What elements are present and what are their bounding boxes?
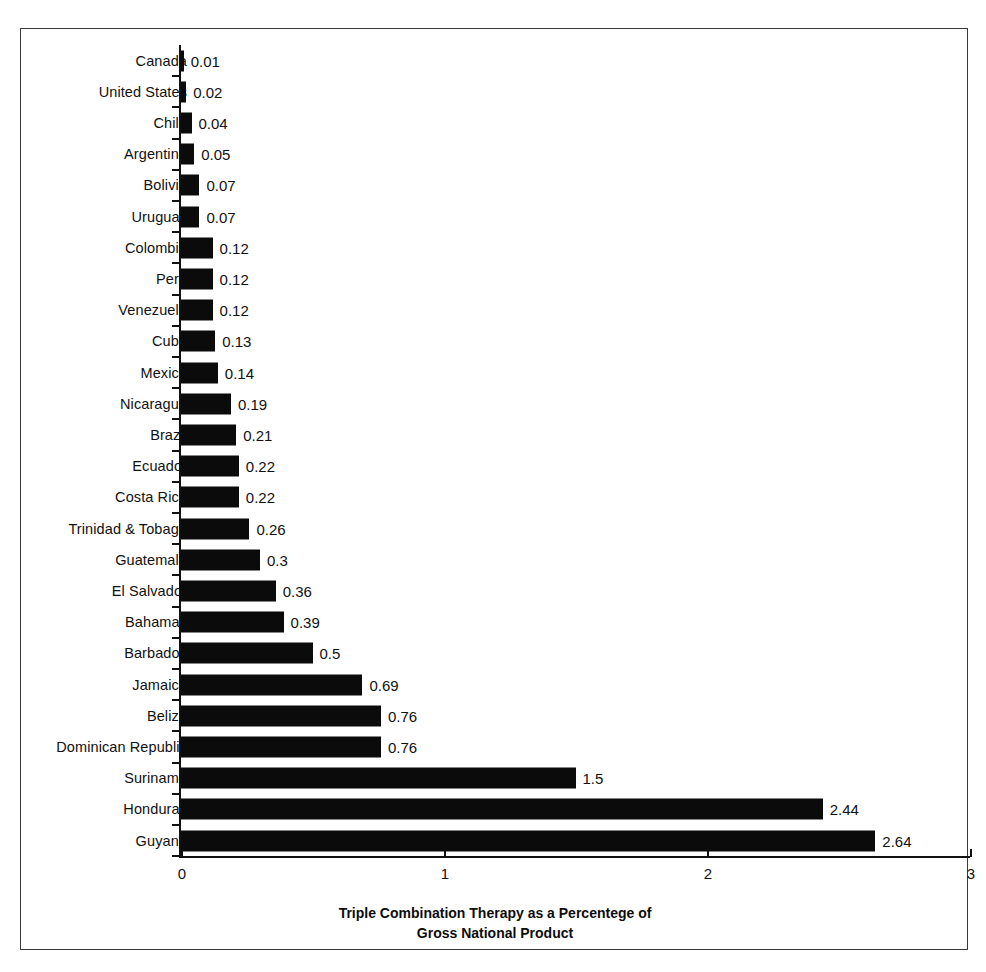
x-axis-tick-label: 3: [967, 865, 975, 882]
y-axis-tick: [172, 543, 179, 545]
bar-category-label: Barbados: [124, 645, 187, 661]
bar: [181, 81, 186, 102]
bar-category-label: Dominican Republic: [56, 739, 187, 755]
x-axis-tick-label: 1: [441, 865, 449, 882]
x-axis-line: [179, 856, 970, 858]
bar-category-label: United States: [99, 84, 187, 100]
bar: [181, 736, 381, 757]
bar-row: Trinidad & Tobago0.26: [21, 513, 969, 544]
x-axis-title-line1: Triple Combination Therapy as a Percente…: [21, 903, 969, 923]
bar-row: El Salvador0.36: [21, 575, 969, 606]
bar-category-label: Colombia: [125, 240, 187, 256]
y-axis-tick: [172, 75, 179, 77]
y-axis-tick: [172, 606, 179, 608]
bar-row: Costa Rica0.22: [21, 482, 969, 513]
bar-category-label: Canada: [136, 53, 187, 69]
bar-row: Barbados0.5: [21, 638, 969, 669]
bar-row: Dominican Republic0.76: [21, 731, 969, 762]
bar-value-label: 0.04: [199, 114, 228, 131]
x-axis-title-line2: Gross National Product: [21, 923, 969, 943]
bar-value-label: 0.12: [220, 270, 249, 287]
bar: [181, 300, 213, 321]
bar-row: Venezuela0.12: [21, 295, 969, 326]
bar-value-label: 0.36: [283, 582, 312, 599]
bar-category-label: Argentina: [124, 146, 187, 162]
bar: [181, 331, 215, 352]
bar-value-label: 0.01: [191, 52, 220, 69]
bar: [181, 50, 184, 71]
y-axis-tick: [172, 637, 179, 639]
bar-value-label: 0.12: [220, 239, 249, 256]
y-axis-tick: [172, 512, 179, 514]
bar-row: Guatemala0.3: [21, 544, 969, 575]
bar-value-label: 0.07: [206, 208, 235, 225]
bar-row: United States0.02: [21, 76, 969, 107]
bar: [181, 175, 199, 196]
bar-category-label: Uruguay: [131, 209, 187, 225]
bar: [181, 643, 313, 664]
bar-row: Uruguay0.07: [21, 201, 969, 232]
bar-row: Cuba0.13: [21, 326, 969, 357]
bar: [181, 768, 576, 789]
bar-value-label: 0.69: [369, 676, 398, 693]
bar: [181, 674, 362, 695]
bar: [181, 424, 236, 445]
bar-row: Chile0.04: [21, 107, 969, 138]
x-axis-tick: [181, 849, 183, 857]
bar: [181, 456, 239, 477]
bar-value-label: 0.02: [193, 83, 222, 100]
bar-chart-plot-area: Canada0.01United States0.02Chile0.04Arge…: [21, 29, 969, 951]
bar-value-label: 0.76: [388, 738, 417, 755]
bar-category-label: Nicaragua: [120, 396, 187, 412]
x-axis-tick: [707, 849, 709, 857]
bar-category-label: Honduras: [123, 801, 187, 817]
bar: [181, 799, 823, 820]
bar-row: Mexico0.14: [21, 357, 969, 388]
bar: [181, 830, 875, 851]
bar: [181, 518, 249, 539]
bar-row: Suriname1.5: [21, 763, 969, 794]
bar: [181, 705, 381, 726]
y-axis-tick: [172, 169, 179, 171]
bar-row: Jamaica0.69: [21, 669, 969, 700]
bar-value-label: 0.19: [238, 395, 267, 412]
bar: [181, 549, 260, 570]
bar-category-label: Guyana: [136, 833, 187, 849]
bar-row: Belize0.76: [21, 700, 969, 731]
bar: [181, 393, 231, 414]
bar-category-label: Venezuela: [118, 302, 187, 318]
y-axis-tick: [172, 387, 179, 389]
bar: [181, 237, 213, 258]
bar-value-label: 0.21: [243, 426, 272, 443]
bar-value-label: 0.13: [222, 333, 251, 350]
bar-category-label: Ecuador: [132, 458, 187, 474]
y-axis-tick: [172, 762, 179, 764]
bar: [181, 268, 213, 289]
y-axis-tick: [172, 231, 179, 233]
bar-category-label: Guatemala: [115, 552, 187, 568]
bar-row: Colombia0.12: [21, 232, 969, 263]
bar-value-label: 0.05: [201, 146, 230, 163]
y-axis-tick: [172, 138, 179, 140]
y-axis-tick: [172, 668, 179, 670]
y-axis-tick: [172, 450, 179, 452]
bar-row: Bolivia0.07: [21, 170, 969, 201]
chart-frame: Canada0.01United States0.02Chile0.04Arge…: [20, 28, 968, 950]
bar: [181, 144, 194, 165]
bar-row: Nicaragua0.19: [21, 388, 969, 419]
x-axis-title: Triple Combination Therapy as a Percente…: [21, 903, 969, 943]
bar-row: Ecuador0.22: [21, 451, 969, 482]
y-axis-tick: [172, 200, 179, 202]
y-axis-tick: [172, 793, 179, 795]
y-axis-tick: [172, 824, 179, 826]
bar-value-label: 0.22: [246, 489, 275, 506]
x-axis-tick-label: 0: [178, 865, 186, 882]
bar-row: Argentina0.05: [21, 139, 969, 170]
bar-value-label: 0.07: [206, 177, 235, 194]
bar-category-label: Jamaica: [132, 677, 187, 693]
bar-row: Canada0.01: [21, 45, 969, 76]
bar-value-label: 0.39: [291, 614, 320, 631]
bar-row: Peru0.12: [21, 263, 969, 294]
bar: [181, 612, 284, 633]
bar: [181, 112, 192, 133]
